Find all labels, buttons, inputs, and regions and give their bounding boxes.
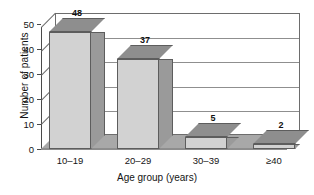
y-tick-label-20: 20 <box>12 94 34 105</box>
bar-30-39: 5 <box>185 13 227 149</box>
bar-face-20-29 <box>117 59 159 149</box>
bar-face-30-39 <box>185 137 227 149</box>
plot-area: 48 37 5 2 <box>41 13 301 149</box>
x-tick-label-10-19: 10–19 <box>40 155 100 166</box>
x-tick-label-ge-40: ≥40 <box>244 155 304 166</box>
bar-value-label-ge-40: 2 <box>253 120 309 130</box>
bar-face-10-19 <box>49 32 91 149</box>
bar-side-ge-40 <box>295 144 309 149</box>
bar-value-label-30-39: 5 <box>185 113 241 123</box>
bar-value-label-10-19: 48 <box>49 8 105 18</box>
bar-side-20-29 <box>159 59 173 149</box>
bar-face-ge-40 <box>253 144 295 149</box>
bar-chart-figure: Number of patients 0 10 20 30 40 50 <box>0 0 314 195</box>
y-axis-line <box>41 27 42 149</box>
y-tick-label-10: 10 <box>12 119 34 130</box>
bar-side-10-19 <box>91 32 105 149</box>
bar-value-label-20-29: 37 <box>117 35 173 45</box>
x-tick-label-30-39: 30–39 <box>176 155 236 166</box>
bar-10-19: 48 <box>49 13 91 149</box>
bar-top-ge-40 <box>253 130 309 144</box>
x-axis-title: Age group (years) <box>0 172 314 183</box>
bar-ge-40: 2 <box>253 13 295 149</box>
bar-20-29: 37 <box>117 13 159 149</box>
y-tick-label-30: 30 <box>12 69 34 80</box>
y-tick-label-0: 0 <box>12 144 34 155</box>
x-tick-label-20-29: 20–29 <box>108 155 168 166</box>
y-tick-label-40: 40 <box>12 44 34 55</box>
y-tick-label-50: 50 <box>12 19 34 30</box>
